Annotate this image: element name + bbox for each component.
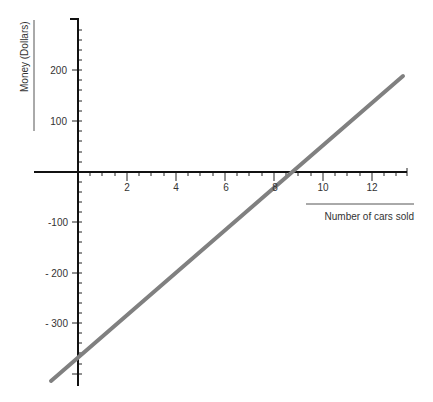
y-tick-label: - 200 — [45, 268, 68, 279]
y-axis-label: Money (Dollars) — [19, 21, 30, 92]
x-tick-label: 12 — [366, 182, 378, 193]
x-tick-label: 8 — [272, 182, 278, 193]
profit-line — [51, 76, 403, 381]
x-tick-label: 6 — [223, 182, 229, 193]
x-tick-label: 4 — [173, 182, 179, 193]
x-tick-label: 2 — [124, 182, 130, 193]
chart: 200 100 -100 - 200 - 300 2 4 6 8 10 12 N… — [0, 0, 433, 402]
y-tick-label: -100 — [48, 217, 68, 228]
y-tick-label: - 300 — [45, 318, 68, 329]
x-axis-ticks — [90, 168, 407, 181]
y-tick-label: 200 — [50, 65, 67, 76]
y-tick-label: 100 — [50, 116, 67, 127]
x-tick-label: 10 — [317, 182, 329, 193]
x-axis-label: Number of cars sold — [325, 211, 414, 222]
